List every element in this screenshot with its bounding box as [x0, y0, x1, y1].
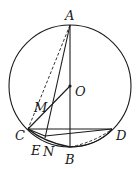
label-m: M: [33, 100, 48, 115]
label-e: E: [30, 143, 41, 158]
segment-an: [45, 25, 70, 138]
label-n: N: [42, 144, 55, 159]
segment-nd: [45, 129, 112, 136]
label-o: O: [75, 84, 86, 99]
label-a: A: [64, 8, 74, 23]
label-d: D: [115, 128, 127, 143]
point-o-dot: [68, 84, 71, 87]
geometry-diagram: A O M C D E N B: [0, 0, 138, 169]
label-b: B: [64, 152, 75, 167]
label-c: C: [15, 128, 25, 143]
